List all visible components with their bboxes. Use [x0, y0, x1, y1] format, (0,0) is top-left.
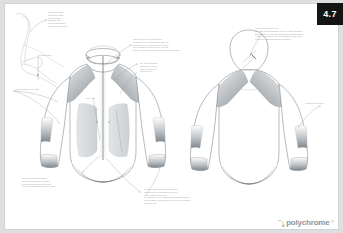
brand-logo: ⤵ polychrome ® — [278, 218, 334, 227]
annotation-note-center-right: bei der verbindjeht bringet mit breitere… — [140, 62, 174, 73]
annotation-note-detail-collar: zur mm elastic — [38, 54, 62, 57]
annotation-note-left-sleeve: vorderteiljacke in die naht — [15, 88, 49, 91]
annotation-note-top-center: zum laser an hoch seite stehen elemente … — [133, 38, 205, 52]
front-side-panel-right — [109, 104, 129, 157]
annotation-note-bottom-left: bei der seitschlaufenbogen lasst wird zu… — [22, 177, 84, 188]
back-cuff-left — [191, 157, 208, 170]
front-cuff-left — [41, 154, 58, 167]
spec-sheet-page: bei der unterarm beluftung kommt direkt … — [0, 0, 343, 233]
page-number-badge: 4.7 — [317, 3, 343, 25]
annotation-note-right-sleeve: vorderteiljacke ellbo — [305, 102, 339, 105]
logo-wordmark: polychrome — [286, 218, 329, 227]
logo-swoosh-icon: ⤵ — [278, 220, 285, 227]
annotation-note-bottom-center: im nahbereich der reisverschluss zu anla… — [144, 188, 220, 205]
jacket-back-view — [190, 30, 307, 184]
front-cuff-right — [148, 154, 165, 167]
front-collar-snap-right — [117, 57, 119, 59]
annotation-note-top-left: bei der unterarm beluftung kommt direkt … — [48, 11, 86, 28]
annotation-note-center-left: zum - hin — [86, 97, 106, 100]
front-side-panel-left — [77, 104, 97, 157]
front-collar-snap-left — [87, 57, 89, 59]
back-cuff-right — [290, 157, 307, 170]
logo-registered-icon: ® — [331, 219, 334, 224]
annotation-note-top-right: bei der kapuze seite zum als trage die a… — [255, 27, 331, 41]
page-number-label: 4.7 — [323, 9, 336, 19]
